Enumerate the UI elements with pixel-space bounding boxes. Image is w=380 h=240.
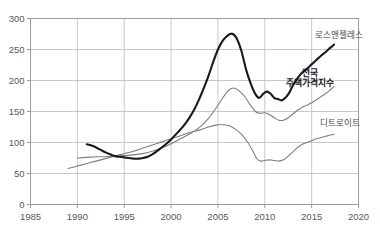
y-tick-label: 300 <box>9 13 25 24</box>
x-tick-label: 2000 <box>161 211 182 222</box>
y-tick-label: 100 <box>9 137 25 148</box>
y-tick-label: 250 <box>9 44 25 55</box>
series-label: 디트로이트 <box>320 118 360 128</box>
y-tick-label: 150 <box>9 106 25 117</box>
y-tick-label: 200 <box>9 75 25 86</box>
home-price-index-chart: 050100150200250300 198519901995200020052… <box>0 0 380 240</box>
x-tick-label: 2005 <box>207 211 228 222</box>
x-tick-label: 2010 <box>254 211 275 222</box>
x-tick-label: 1990 <box>67 211 88 222</box>
x-tick-label: 2015 <box>301 211 322 222</box>
series-label: 로스앤젤레스 <box>315 29 363 40</box>
x-tick-label: 1995 <box>114 211 135 222</box>
x-tick-label: 2020 <box>348 211 369 222</box>
x-tick-label: 1985 <box>20 211 41 222</box>
y-tick-label: 0 <box>19 199 24 210</box>
y-tick-label: 50 <box>14 168 25 179</box>
chart-canvas: 050100150200250300 198519901995200020052… <box>0 0 380 240</box>
